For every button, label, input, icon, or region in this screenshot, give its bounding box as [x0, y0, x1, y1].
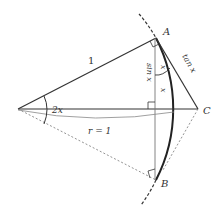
- trig-inequality-diagram: A C B 1 2x r = 1 sin x x x tan x: [0, 0, 218, 214]
- right-angle-foot: [148, 102, 155, 109]
- radius-label: r = 1: [88, 126, 111, 136]
- angle-x-label: x: [159, 65, 168, 70]
- right-angle-b: [148, 169, 155, 178]
- point-b-label: B: [160, 178, 168, 189]
- point-a-label: A: [162, 26, 170, 37]
- radius-oa: [18, 38, 156, 109]
- dashed-bc: [163, 109, 198, 170]
- angle-2x-label: 2x: [51, 105, 63, 115]
- circle-extension-top: [139, 14, 156, 38]
- angle-2x-arc: [44, 96, 47, 124]
- half-arc-x-label: x: [159, 88, 168, 93]
- point-c-label: C: [203, 105, 211, 116]
- dashed-ob: [18, 109, 156, 180]
- radius-arc-indicator: [18, 110, 174, 118]
- circle-extension-bottom: [141, 180, 156, 205]
- side-oa-label: 1: [88, 55, 94, 66]
- tan-x-label: tan x: [180, 53, 198, 75]
- sin-x-label: sin x: [145, 63, 154, 82]
